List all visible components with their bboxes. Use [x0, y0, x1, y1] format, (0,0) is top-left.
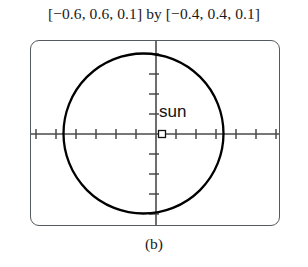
- plot-svg: [31, 41, 279, 225]
- sun-marker-icon: [159, 131, 166, 138]
- viewing-window-caption: [−0.6, 0.6, 0.1] by [−0.4, 0.4, 0.1]: [0, 5, 308, 23]
- sun-label: sun: [159, 103, 186, 120]
- calculator-screen-frame: sun: [30, 40, 280, 226]
- figure-container: [−0.6, 0.6, 0.1] by [−0.4, 0.4, 0.1]: [0, 0, 308, 267]
- plot-area: sun: [31, 41, 279, 225]
- figure-letter: (b): [0, 235, 308, 253]
